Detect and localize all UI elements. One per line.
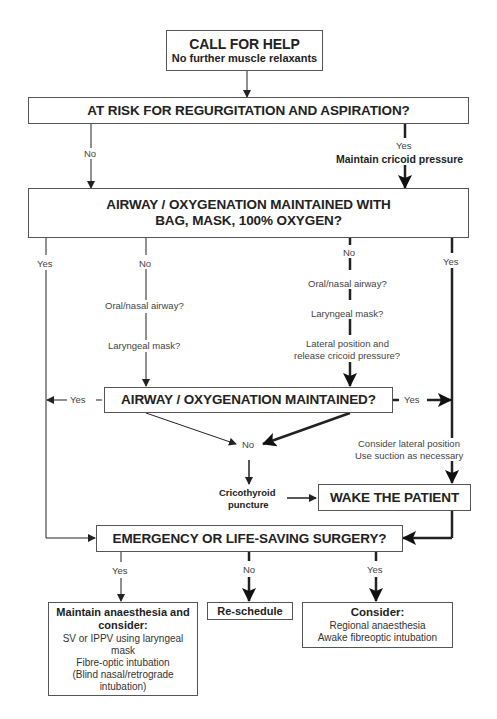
bag-mask-line2: BAG, MASK, 100% OXYGEN?: [155, 213, 342, 229]
reschedule-title: Re-schedule: [217, 605, 282, 618]
maintain-item: mask: [111, 645, 135, 657]
bag-yes-left-label: Yes: [37, 258, 53, 269]
airway-maintained-title: AIRWAY / OXYGENATION MAINTAINED?: [121, 392, 376, 408]
laryngeal-left-label: Laryngeal mask?: [108, 340, 180, 351]
maintain-item: (Blind nasal/retrograde: [72, 669, 173, 681]
bag-yes-right-label: Yes: [443, 256, 459, 267]
risk-yes-label: Yes: [396, 140, 412, 151]
airway-maintained-box: AIRWAY / OXYGENATION MAINTAINED?: [104, 387, 393, 413]
oral-nasal-left-label: Oral/nasal airway?: [105, 300, 184, 311]
maintain-anaesthesia-title2: consider:: [98, 619, 148, 632]
wake-patient-title: WAKE THE PATIENT: [330, 490, 459, 506]
maintained-yes-left-label: Yes: [70, 394, 86, 405]
maintain-anaesthesia-title1: Maintain anaesthesia and: [56, 606, 189, 619]
consider-item: Awake fibreoptic intubation: [318, 632, 437, 644]
emergency-surgery-title: EMERGENCY OR LIFE-SAVING SURGERY?: [113, 531, 387, 547]
consider-box: Consider: Regional anaesthesia Awake fib…: [302, 602, 453, 648]
bag-no-right-label: No: [343, 247, 355, 258]
cricothyroid-line2-label: puncture: [228, 499, 269, 511]
maintain-anaesthesia-box: Maintain anaesthesia and consider: SV or…: [48, 602, 198, 696]
lateral-line1-label: Lateral position and: [306, 338, 389, 349]
laryngeal-right-label: Laryngeal mask?: [311, 308, 383, 319]
risk-aspiration-box: AT RISK FOR REGURGITATION AND ASPIRATION…: [28, 97, 469, 124]
maintain-item: SV or IPPV using laryngeal: [63, 633, 184, 645]
bag-no-left-label: No: [139, 258, 151, 269]
consider-lateral-line2-label: Use suction as necessary: [355, 450, 463, 461]
maintain-item: intubation): [100, 681, 147, 693]
emergency-yes-right-label: Yes: [367, 564, 383, 575]
oral-nasal-right-label: Oral/nasal airway?: [308, 278, 387, 289]
wake-patient-box: WAKE THE PATIENT: [318, 484, 471, 511]
maintained-no-label: No: [242, 439, 254, 450]
call-for-help-title: CALL FOR HELP: [189, 36, 299, 52]
cricoid-pressure-label: Maintain cricoid pressure: [336, 153, 463, 165]
risk-aspiration-title: AT RISK FOR REGURGITATION AND ASPIRATION…: [87, 103, 409, 119]
consider-title: Consider:: [351, 606, 405, 619]
bag-mask-line1: AIRWAY / OXYGENATION MAINTAINED WITH: [106, 197, 390, 213]
maintain-item: Fibre-optic intubation: [76, 657, 169, 669]
emergency-yes-left-label: Yes: [112, 565, 128, 576]
consider-lateral-line1-label: Consider lateral position: [358, 438, 460, 449]
reschedule-box: Re-schedule: [207, 602, 293, 620]
emergency-no-label: No: [243, 564, 255, 575]
cricothyroid-line1-label: Cricothyroid: [219, 487, 275, 499]
emergency-surgery-box: EMERGENCY OR LIFE-SAVING SURGERY?: [96, 525, 403, 552]
call-for-help-subtitle: No further muscle relaxants: [172, 52, 318, 65]
call-for-help-box: CALL FOR HELP No further muscle relaxant…: [166, 30, 323, 71]
bag-mask-box: AIRWAY / OXYGENATION MAINTAINED WITH BAG…: [28, 188, 469, 238]
maintained-yes-right-label: Yes: [404, 394, 420, 405]
consider-item: Regional anaesthesia: [329, 620, 425, 632]
risk-no-label: No: [84, 148, 96, 159]
lateral-line2-label: release cricoid pressure?: [294, 350, 400, 361]
